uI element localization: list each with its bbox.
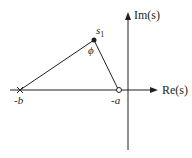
angle-label-phi: ϕ [88, 44, 94, 56]
filled-dot-marker-icon [92, 38, 97, 43]
s1-subscript: 1 [100, 30, 104, 39]
segment-b-to-s1 [20, 40, 94, 90]
point-label-s1: s1 [96, 24, 104, 39]
segment-s1-to-a [94, 40, 118, 89]
imag-axis-arrow-icon [125, 12, 131, 20]
imag-axis-label: Im(s) [134, 8, 160, 22]
real-axis-arrow-icon [150, 87, 158, 93]
real-axis-label: Re(s) [162, 83, 188, 97]
open-circle-marker-icon [117, 88, 122, 93]
s-plane-diagram: Im(s) Re(s) s1 ϕ -b -a [0, 0, 192, 158]
point-label-minus-b: -b [14, 94, 24, 106]
point-label-minus-a: -a [111, 94, 121, 106]
